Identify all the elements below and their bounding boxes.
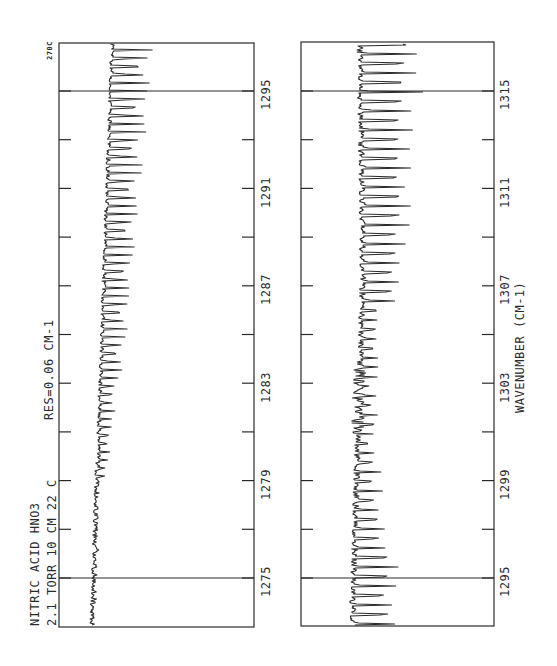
title-line2: 2.1 TORR 10 CM 22 C: [45, 479, 59, 626]
top-tick-label: 1295: [259, 79, 273, 110]
top-panel: [59, 43, 254, 627]
bottom-tick-label: 1307: [498, 274, 512, 305]
top-spectrum-trace: [90, 44, 152, 625]
bottom-tick-label: 1311: [498, 177, 512, 208]
top-tick-label: 1275: [259, 566, 273, 597]
top-ticks: [59, 91, 254, 578]
bottom-tick-label: 1295: [498, 566, 512, 597]
top-panel-frame: [59, 43, 254, 627]
resolution-label: RES=0.06 CM-1: [42, 320, 56, 420]
xaxis-label: WAVENUMBER (CM-1): [513, 282, 527, 413]
spectrum-plot: [0, 0, 557, 666]
bottom-spectrum-trace: [350, 44, 423, 625]
title-line1: NITRIC ACID HNO3: [28, 502, 42, 626]
bottom-tick-label: 1315: [498, 79, 512, 110]
top-tick-label: 1283: [259, 372, 273, 403]
bottom-ticks: [301, 91, 494, 578]
bottom-panel: [301, 42, 494, 626]
bottom-tick-label: 1303: [498, 372, 512, 403]
top-tick-label: 1287: [259, 274, 273, 305]
corner-label: 270C: [46, 41, 54, 60]
top-tick-label: 1279: [259, 469, 273, 500]
bottom-tick-label: 1299: [498, 469, 512, 500]
top-tick-label: 1291: [259, 177, 273, 208]
